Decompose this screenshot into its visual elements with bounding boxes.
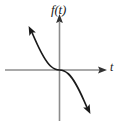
x-axis-label: t <box>110 61 113 73</box>
axes-group <box>5 14 107 121</box>
function-graph-figure: f(t) t <box>0 0 121 126</box>
y-axis-label: f(t) <box>51 3 66 16</box>
graph-canvas <box>0 0 121 126</box>
